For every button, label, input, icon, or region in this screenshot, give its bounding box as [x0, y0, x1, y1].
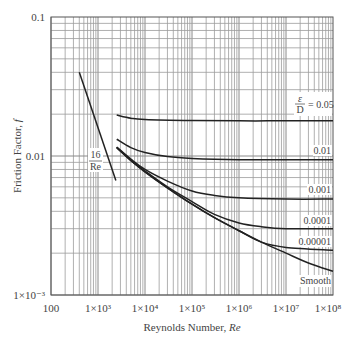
diameter-symbol: D [296, 104, 303, 115]
roughness-label-0.00001: 0.00001 [296, 236, 332, 247]
x-tick-label: 1×10³ [85, 302, 112, 314]
y-tick-label: 1×10⁻³ [13, 289, 46, 301]
x-tick-label: 1×10⁸ [315, 302, 342, 314]
roughness-label-0.05: ε D = 0.05 [294, 92, 334, 116]
x-tick-label: 1×10⁵ [179, 302, 206, 314]
x-axis-title-text: Reynolds Number, [143, 321, 228, 333]
y-tick-label: 0.01 [26, 150, 45, 162]
x-axis-title-var: Re [228, 321, 241, 333]
y-axis-title: Friction Factor, f [11, 117, 23, 193]
moody-chart: 0.1 0.01 1×10⁻³ 100 1×10³ 1×10⁴ 1×10⁵ 1×… [0, 0, 351, 341]
x-tick-label: 1×10⁶ [226, 302, 253, 314]
y-axis-title-var: f [11, 117, 23, 122]
epsilon-symbol: ε [298, 93, 302, 104]
x-tick-label: 1×10⁷ [273, 302, 300, 314]
x-tick-label: 100 [43, 302, 60, 314]
smooth-label: Smooth [297, 275, 331, 287]
y-tick-label: 0.1 [31, 11, 45, 23]
roughness-label-0.001: 0.001 [307, 184, 332, 195]
laminar-numerator: 16 [91, 149, 101, 160]
curve-label-0.001: 0.001 [309, 184, 332, 195]
laminar-denominator: Re [90, 161, 102, 172]
roughness-value: = 0.05 [308, 99, 334, 110]
curve-label-0.0001: 0.0001 [304, 215, 332, 226]
laminar-label: 16 Re [88, 148, 103, 172]
x-axis-title: Reynolds Number, Re [143, 321, 240, 333]
curve-label-0.00001: 0.00001 [299, 236, 332, 247]
y-axis-title-text: Friction Factor, [11, 122, 23, 193]
roughness-label-0.0001: 0.0001 [302, 215, 332, 226]
roughness-label-0.01: 0.01 [313, 145, 332, 156]
x-tick-label: 1×10⁴ [132, 302, 159, 314]
curve-label-0.01: 0.01 [314, 145, 332, 156]
curve-label-smooth: Smooth [300, 275, 331, 286]
